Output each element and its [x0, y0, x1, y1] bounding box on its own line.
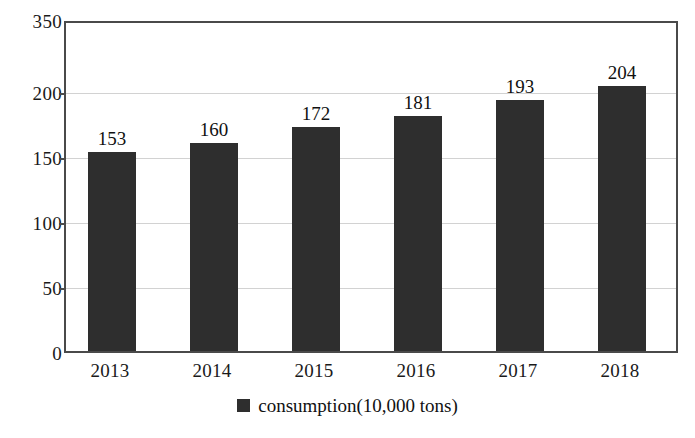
- bar-value-2017: 193: [496, 77, 544, 96]
- legend-swatch-icon: [237, 399, 250, 412]
- bar-2013[interactable]: [88, 152, 136, 351]
- bar-2014[interactable]: [190, 143, 238, 351]
- x-axis-label-2016: 2016: [388, 360, 444, 382]
- bar-value-2014: 160: [190, 120, 238, 139]
- y-axis-tick-label-150: 150: [6, 149, 62, 168]
- gridline-50: [66, 288, 676, 289]
- gridline-200: [66, 93, 676, 94]
- y-axis-tick-label-350: 350: [6, 12, 62, 31]
- bar-2016[interactable]: [394, 116, 442, 351]
- y-axis-tick-150: [59, 158, 66, 160]
- x-axis-label-2013: 2013: [82, 360, 138, 382]
- bar-2017[interactable]: [496, 100, 544, 351]
- y-axis-tick-50: [59, 288, 66, 290]
- y-axis-tick-label-100: 100: [6, 214, 62, 233]
- x-axis-label-2017: 2017: [490, 360, 546, 382]
- x-axis-label-2014: 2014: [184, 360, 240, 382]
- bar-value-2016: 181: [394, 93, 442, 112]
- gridline-150: [66, 158, 676, 159]
- bar-2015[interactable]: [292, 127, 340, 351]
- bar-2018[interactable]: [598, 86, 646, 351]
- y-axis-label-group: 350 200 150 100 50 0: [0, 0, 62, 438]
- bar-value-2015: 172: [292, 104, 340, 123]
- y-axis-tick-label-0: 0: [6, 344, 62, 363]
- legend-label-consumption: consumption(10,000 tons): [258, 396, 458, 415]
- gridline-100: [66, 223, 676, 224]
- y-axis-tick-label-200: 200: [6, 84, 62, 103]
- bar-value-2013: 153: [88, 129, 136, 148]
- plot-area: 153 160 172 181 193 204: [64, 21, 678, 353]
- bar-chart: 350 200 150 100 50 0 153 160 172 181 193…: [0, 0, 695, 438]
- y-axis-tick-200: [59, 93, 66, 95]
- x-axis-label-2015: 2015: [286, 360, 342, 382]
- bar-value-2018: 204: [598, 63, 646, 82]
- x-axis-label-2018: 2018: [592, 360, 648, 382]
- legend: consumption(10,000 tons): [0, 396, 695, 415]
- y-axis-tick-100: [59, 223, 66, 225]
- y-axis-tick-label-50: 50: [6, 279, 62, 298]
- x-axis-label-group: 2013 2014 2015 2016 2017 2018: [64, 360, 678, 388]
